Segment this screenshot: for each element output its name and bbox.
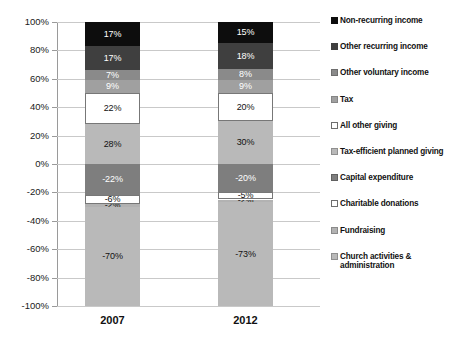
bar-segment: 17% xyxy=(85,46,140,70)
bar-segment: 9% xyxy=(85,80,140,93)
y-axis-tick-label: 80% xyxy=(0,45,49,55)
bar-segment-value-label: 7% xyxy=(106,71,119,80)
y-axis-tick-label: 20% xyxy=(0,131,49,141)
bar-segment: 20% xyxy=(218,93,273,121)
legend-item-label: Tax-efficient planned giving xyxy=(340,147,443,157)
legend-item-label: Charitable donations xyxy=(340,199,418,209)
bar-column: 17%17%7%9%22%28%-22%-6%-2%-70% xyxy=(85,22,140,306)
bar-segment: -70% xyxy=(85,207,140,306)
bar-segment: 28% xyxy=(85,124,140,164)
bar-segment-value-label: 22% xyxy=(104,104,122,113)
legend-item[interactable]: All other giving xyxy=(331,121,449,131)
bar-segment: 8% xyxy=(218,69,273,80)
y-axis-tick-label: -80% xyxy=(0,273,49,283)
legend-item-label: Tax xyxy=(340,95,353,105)
legend-item-label: Other voluntary income xyxy=(340,68,429,78)
legend-swatch-icon xyxy=(331,17,338,24)
bar-segment-value-label: 17% xyxy=(104,30,122,39)
bar-segment: 17% xyxy=(85,22,140,46)
y-axis-tick-label: 60% xyxy=(0,74,49,84)
bar-segment: -22% xyxy=(85,164,140,195)
legend-swatch-icon xyxy=(331,200,338,207)
y-axis-tick-label: -100% xyxy=(0,301,49,311)
bar-segment-value-label: -20% xyxy=(235,174,256,183)
legend-item[interactable]: Charitable donations xyxy=(331,199,449,209)
x-axis-category-label: 2012 xyxy=(201,314,291,326)
legend-item[interactable]: Non-recurring income xyxy=(331,16,449,26)
bar-segment: 15% xyxy=(218,22,273,43)
bar-segment-value-label: 9% xyxy=(239,82,252,91)
legend-swatch-icon xyxy=(331,43,338,50)
legend-item-label: Capital expenditure xyxy=(340,173,413,183)
y-axis-tick-label: 0% xyxy=(0,159,49,169)
bar-segment: -73% xyxy=(218,202,273,306)
legend-item-label: All other giving xyxy=(340,121,397,131)
y-axis-tick-label: 40% xyxy=(0,102,49,112)
y-axis-tick-label: -20% xyxy=(0,187,49,197)
legend-swatch-icon xyxy=(331,174,338,181)
bar-segment-value-label: 28% xyxy=(104,140,122,149)
legend-item[interactable]: Tax xyxy=(331,95,449,105)
y-axis-tick-label: -40% xyxy=(0,216,49,226)
bar-segment-value-label: 9% xyxy=(106,82,119,91)
y-axis-tick-label: -60% xyxy=(0,244,49,254)
bar-segment: -20% xyxy=(218,164,273,192)
legend-swatch-icon xyxy=(331,69,338,76)
plot-area: 17%17%7%9%22%28%-22%-6%-2%-70%15%18%8%9%… xyxy=(57,22,320,306)
bar-segment-value-label: 30% xyxy=(237,138,255,147)
y-axis-tick-label: 100% xyxy=(0,17,49,27)
bar-segment-value-label: 15% xyxy=(237,28,255,37)
legend-swatch-icon xyxy=(331,253,338,260)
stacked-bar-chart: 100%80%60%40%20%0%-20%-40%-60%-80%-100% … xyxy=(0,0,449,342)
legend-swatch-icon xyxy=(331,227,338,234)
bar-segment: -5% xyxy=(218,192,273,199)
bar-segment: 22% xyxy=(85,93,140,124)
legend-swatch-icon xyxy=(331,122,338,129)
legend-item-label: Fundraising xyxy=(340,226,385,236)
bar-column: 15%18%8%9%20%30%-20%-5%-2%-73% xyxy=(218,22,273,306)
bar-segment-value-label: -6% xyxy=(105,195,121,204)
bar-segment-value-label: 20% xyxy=(237,103,255,112)
legend-item-label: Church activities & administration xyxy=(340,252,449,271)
bar-segment: -6% xyxy=(85,195,140,204)
bar-segment: 30% xyxy=(218,121,273,164)
legend-item[interactable]: Church activities & administration xyxy=(331,252,449,271)
legend-item[interactable]: Capital expenditure xyxy=(331,173,449,183)
legend-item-label: Other recurring income xyxy=(340,42,428,52)
x-axis-category-label: 2007 xyxy=(68,314,158,326)
bar-segment-value-label: -5% xyxy=(238,192,254,199)
bar-segment-value-label: 17% xyxy=(104,54,122,63)
bar-segment-value-label: -22% xyxy=(102,175,123,184)
bar-segment-value-label: 8% xyxy=(239,70,252,79)
gridline xyxy=(57,306,320,307)
bar-segment-value-label: -73% xyxy=(235,250,256,259)
bar-segment: 18% xyxy=(218,43,273,69)
bar-segment: 7% xyxy=(85,70,140,80)
legend-item[interactable]: Tax-efficient planned giving xyxy=(331,147,449,157)
bar-segment: 9% xyxy=(218,80,273,93)
legend-item-label: Non-recurring income xyxy=(340,16,423,26)
legend-swatch-icon xyxy=(331,96,338,103)
bar-segment-value-label: -70% xyxy=(102,252,123,261)
legend-item[interactable]: Fundraising xyxy=(331,226,449,236)
legend-item[interactable]: Other recurring income xyxy=(331,42,449,52)
legend-swatch-icon xyxy=(331,148,338,155)
bar-segment-value-label: 18% xyxy=(237,52,255,61)
legend-item[interactable]: Other voluntary income xyxy=(331,68,449,78)
